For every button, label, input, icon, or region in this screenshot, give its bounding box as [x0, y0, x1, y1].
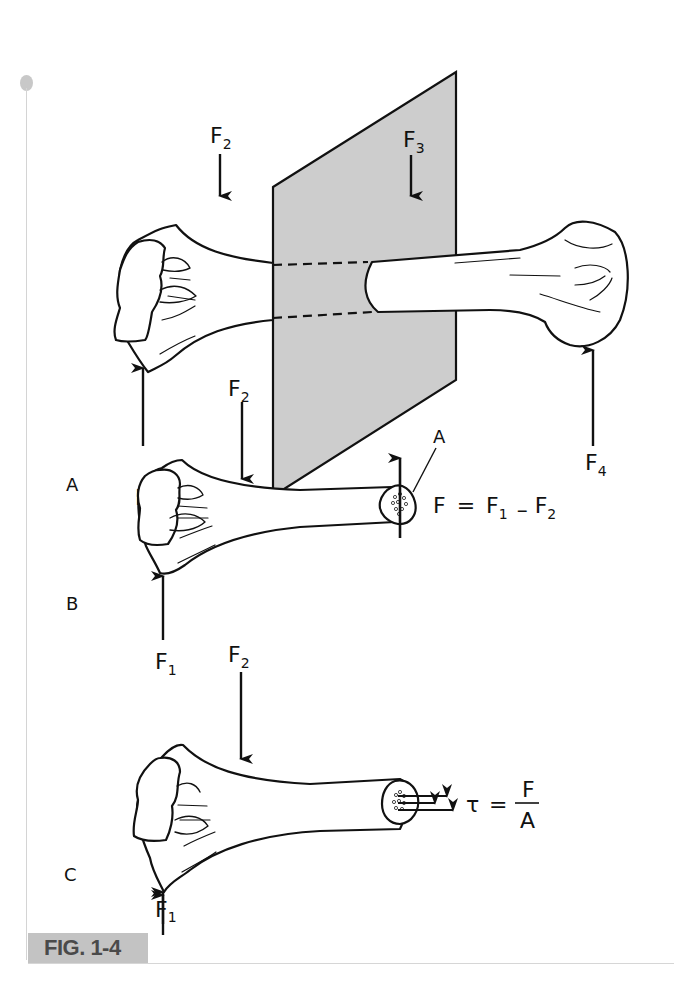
figure-page: FIG. 1-4	[0, 0, 674, 1008]
label-f1-c: F1	[155, 897, 177, 925]
panel-c-f1-overlay	[0, 0, 674, 1008]
